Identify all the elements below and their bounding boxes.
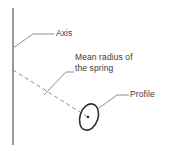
profile-center-dot [87,116,90,119]
mean-radius-label: Mean radius ofthe spring [75,52,133,74]
profile-label: Profile [130,89,155,100]
profile-leader-line [99,95,129,108]
mean-radius-leader-line [44,72,74,95]
spring-geometry-diagram: Axis Mean radius ofthe spring Profile [0,0,169,151]
mean-radius-label-line2: the spring [75,63,113,73]
mean-radius-label-line1: Mean radius of [75,52,133,62]
axis-label: Axis [56,28,72,39]
mean-radius-dashed-line [13,70,88,117]
diagram-canvas [0,0,169,151]
axis-leader-line [13,34,54,48]
